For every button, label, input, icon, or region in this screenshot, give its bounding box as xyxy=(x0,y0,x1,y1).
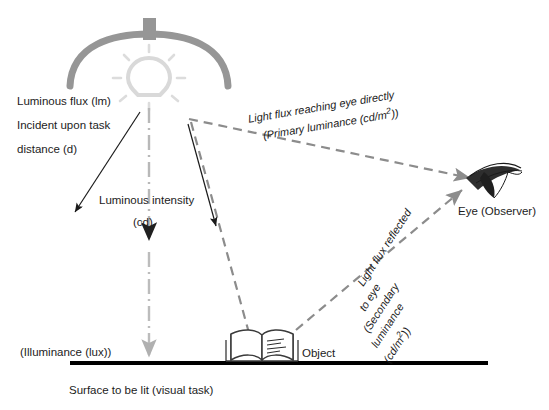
luminous-flux-label-line1: Luminous flux (lm) xyxy=(17,93,111,110)
incident-ray-arrow xyxy=(188,124,216,226)
surface-label: Surface to be lit (visual task) xyxy=(69,382,213,399)
diagram-canvas: Luminous flux (lm) Incident upon task di… xyxy=(0,0,549,410)
book-icon xyxy=(226,330,298,361)
luminous-intensity-label-line2: (cd) xyxy=(133,214,153,231)
incident-ray-to-object xyxy=(191,122,249,333)
eye-label: Eye (Observer) xyxy=(458,203,536,220)
luminous-intensity-label-line1: Luminous intensity xyxy=(99,192,194,209)
object-label: Object xyxy=(302,345,335,362)
luminous-flux-label-line3: distance (d) xyxy=(17,141,77,158)
bulb-icon xyxy=(128,58,170,95)
bulb-rays-icon xyxy=(113,45,185,110)
eye-icon xyxy=(466,163,522,198)
luminous-flux-label-line2: Incident upon task xyxy=(17,117,110,134)
illuminance-label: (Illuminance (lux)) xyxy=(20,344,111,361)
